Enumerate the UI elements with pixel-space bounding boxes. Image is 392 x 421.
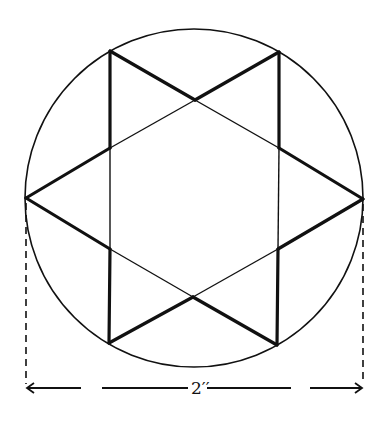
star-in-circle-diagram: 2′′ [0, 0, 392, 421]
circumscribed-circle [25, 29, 363, 367]
star-outer-edges [26, 51, 363, 345]
dimension-label: 2′′ [191, 378, 210, 398]
inner-hexagon-edges [110, 100, 279, 297]
